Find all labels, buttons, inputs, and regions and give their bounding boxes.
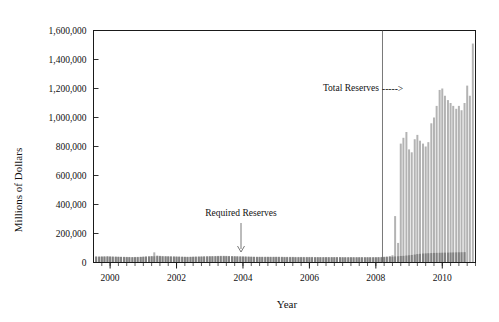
bar-required-reserves	[342, 257, 344, 262]
bar-required-reserves	[259, 257, 261, 262]
bar-required-reserves	[200, 257, 202, 263]
bar-required-reserves	[452, 252, 454, 262]
bar-total-reserves	[441, 89, 443, 263]
bar-required-reserves	[416, 254, 418, 262]
bar-required-reserves	[364, 257, 366, 262]
bar-required-reserves	[311, 257, 313, 262]
bar-required-reserves	[372, 257, 374, 262]
bar-required-reserves	[142, 257, 144, 263]
bar-total-reserves	[436, 106, 438, 263]
y-tick-label: 400,000	[56, 200, 87, 210]
bar-total-reserves	[422, 144, 424, 263]
bar-required-reserves	[444, 253, 446, 263]
bar-total-reserves	[416, 135, 418, 263]
bar-required-reserves	[156, 256, 158, 262]
bar-required-reserves	[242, 257, 244, 263]
bar-required-reserves	[151, 256, 153, 262]
bar-required-reserves	[195, 257, 197, 263]
annotation-total-reserves-arrow: ----->	[382, 84, 403, 94]
bar-required-reserves	[173, 257, 175, 263]
bar-required-reserves	[101, 257, 103, 263]
bar-required-reserves	[184, 257, 186, 263]
bar-required-reserves	[389, 257, 391, 263]
bar-required-reserves	[153, 256, 155, 262]
bar-total-reserves	[458, 106, 460, 263]
annotation-total-reserves-label: Total Reserves	[323, 83, 379, 93]
bar-required-reserves	[112, 257, 114, 263]
bar-required-reserves	[328, 257, 330, 262]
y-tick-label: 800,000	[56, 142, 87, 152]
bar-required-reserves	[383, 257, 385, 262]
bar-required-reserves	[281, 257, 283, 262]
bar-required-reserves	[458, 252, 460, 262]
bar-total-reserves	[402, 138, 404, 263]
x-axis-title: Year	[277, 298, 298, 310]
bar-required-reserves	[308, 257, 310, 262]
y-tick-label: 200,000	[56, 229, 87, 239]
bar-required-reserves	[386, 257, 388, 263]
bar-required-reserves	[165, 256, 167, 262]
bar-total-reserves	[400, 144, 402, 263]
bar-required-reserves	[225, 256, 227, 262]
bar-required-reserves	[245, 257, 247, 263]
bar-required-reserves	[336, 257, 338, 262]
bar-required-reserves	[441, 253, 443, 263]
bar-required-reserves	[220, 256, 222, 262]
reserves-bar-chart: 0200,000400,000600,000800,0001,000,0001,…	[0, 0, 499, 322]
bar-required-reserves	[250, 257, 252, 263]
bar-required-reserves	[187, 257, 189, 262]
bar-required-reserves	[137, 257, 139, 262]
bar-required-reserves	[115, 257, 117, 263]
bar-required-reserves	[427, 253, 429, 262]
bar-required-reserves	[450, 253, 452, 263]
bar-total-reserves	[430, 123, 432, 262]
bar-required-reserves	[353, 257, 355, 262]
bar-required-reserves	[98, 257, 100, 263]
bar-required-reserves	[148, 257, 150, 263]
y-tick-label: 0	[82, 258, 87, 268]
bar-required-reserves	[344, 257, 346, 262]
bar-required-reserves	[447, 253, 449, 263]
bar-required-reserves	[300, 257, 302, 262]
bar-required-reserves	[397, 256, 399, 262]
bar-total-reserves	[427, 142, 429, 262]
bar-required-reserves	[317, 257, 319, 262]
bar-required-reserves	[314, 257, 316, 262]
bar-total-reserves	[414, 139, 416, 262]
bar-required-reserves	[214, 256, 216, 262]
bar-required-reserves	[464, 252, 466, 262]
bar-required-reserves	[402, 256, 404, 263]
bar-required-reserves	[294, 257, 296, 262]
bar-required-reserves	[303, 257, 305, 262]
bar-total-reserves	[447, 100, 449, 262]
bar-required-reserves	[369, 257, 371, 262]
bar-required-reserves	[270, 257, 272, 262]
bar-required-reserves	[275, 257, 277, 262]
bar-required-reserves	[322, 257, 324, 262]
bar-required-reserves	[273, 257, 275, 262]
x-tick-label: 2008	[366, 273, 385, 283]
bar-required-reserves	[333, 257, 335, 262]
bar-required-reserves	[306, 257, 308, 262]
bar-required-reserves	[356, 257, 358, 262]
bar-required-reserves	[430, 253, 432, 262]
bar-total-reserves	[444, 96, 446, 263]
bar-required-reserves	[414, 255, 416, 263]
bar-required-reserves	[391, 257, 393, 263]
bar-required-reserves	[436, 253, 438, 263]
bar-required-reserves	[261, 257, 263, 262]
bar-required-reserves	[223, 256, 225, 262]
bar-required-reserves	[378, 257, 380, 262]
bar-required-reserves	[120, 257, 122, 263]
bar-required-reserves	[117, 257, 119, 263]
bar-required-reserves	[439, 253, 441, 263]
bar-total-reserves	[455, 109, 457, 263]
bar-total-reserves	[425, 147, 427, 263]
bar-required-reserves	[331, 257, 333, 262]
bar-required-reserves	[339, 257, 341, 262]
bar-total-reserves	[464, 103, 466, 263]
bar-required-reserves	[297, 257, 299, 262]
y-tick-label: 1,400,000	[49, 55, 87, 65]
bar-required-reserves	[170, 257, 172, 263]
bar-required-reserves	[159, 256, 161, 262]
